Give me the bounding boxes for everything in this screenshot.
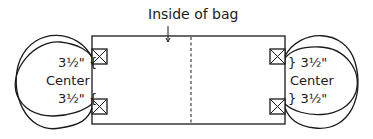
left-bottom-measure: 3½" { — [58, 92, 97, 106]
left-top-measure: 3½" { — [58, 56, 97, 70]
inside-of-bag-label: Inside of bag — [148, 7, 238, 21]
left-center-label: Center — [46, 74, 90, 88]
right-center-label: Center — [290, 74, 334, 88]
arrow-down-icon — [166, 26, 170, 42]
bag-outline — [92, 36, 285, 124]
right-top-x-box — [270, 49, 285, 64]
right-top-measure: } 3½" — [288, 56, 327, 70]
right-bottom-x-box — [270, 99, 285, 114]
right-bottom-measure: } 3½" — [288, 92, 327, 106]
